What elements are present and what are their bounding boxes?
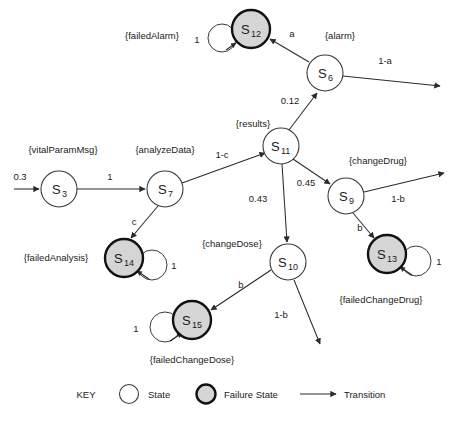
nodes-layer: S 3 S 7 S 11 S 6 [41,10,406,339]
edge-label-s12-loop: 1 [194,34,199,45]
selfloop-s13-arrow [400,267,412,275]
node-s6-label: S [318,66,327,81]
edge-label-entry-prob: 0.3 [13,171,26,182]
node-s12-sublabel: 12 [251,29,261,39]
node-s15-label: S [182,313,191,328]
node-s9-sublabel: 9 [349,196,354,206]
node-s3-label: S [52,182,61,197]
edge-label-s11-s10: 0.43 [249,193,268,204]
set-label-change-dose: {changeDose} [202,238,262,249]
edge-label-s6-exit: 1-a [378,55,392,66]
edge-s9-exit [364,173,444,192]
edge-s6-exit [343,76,440,86]
edge-label-s10-exit: 1-b [274,309,288,320]
edge-s10-exit [294,280,320,344]
edge-label-s3-s7: 1 [107,171,112,182]
node-s11-sublabel: 11 [281,146,290,156]
node-s13-label: S [377,247,386,262]
node-s11-label: S [271,139,280,154]
set-label-failed-change-dose: {failedChangeDose} [150,354,235,365]
node-s7[interactable]: S 7 [147,171,183,207]
node-s11[interactable]: S 11 [263,128,299,164]
legend-failure-state-icon [197,385,216,404]
edge-label-s7-s11: 1-c [215,149,228,160]
node-s12-label: S [241,22,250,37]
set-label-failed-analysis: {failedAnalysis} [24,252,88,263]
node-s9[interactable]: S 9 [328,178,364,214]
legend-state-icon [120,385,139,404]
edge-label-s14-loop: 1 [171,260,176,271]
node-s13[interactable]: S 13 [368,235,406,273]
edge-label-s9-exit: 1-b [391,193,405,204]
set-label-change-drug: {changeDrug} [349,155,407,166]
node-s6-sublabel: 6 [328,73,333,83]
node-s15[interactable]: S 15 [173,301,211,339]
edge-label-s10-s15: b [238,279,243,290]
set-label-results: {results} [236,118,270,129]
node-s10-sublabel: 10 [288,262,298,272]
legend: KEY State Failure State Transition [76,385,385,404]
node-s15-sublabel: 15 [192,320,202,330]
set-label-failed-alarm: {failedAlarm} [125,30,179,41]
node-s10[interactable]: S 10 [270,244,306,280]
node-s14-sublabel: 14 [124,258,134,268]
edge-s9-s13 [353,213,374,238]
state-transition-diagram: S 3 S 7 S 11 S 6 [0,0,456,421]
node-s3[interactable]: S 3 [41,171,77,207]
edge-label-s13-loop: 1 [436,256,441,267]
edge-s6-s12 [270,39,309,62]
node-s13-sublabel: 13 [387,254,397,264]
legend-title: KEY [76,389,96,400]
node-s3-sublabel: 3 [62,189,67,199]
selfloop-s14-arrow [137,271,149,279]
edge-label-s6-s12: a [289,28,295,39]
legend-transition-label: Transition [344,389,385,400]
set-label-alarm: {alarm} [325,30,355,41]
node-s12[interactable]: S 12 [232,10,270,48]
legend-state-label: State [148,389,170,400]
edge-label-s11-s6: 0.12 [281,95,300,106]
edge-label-s9-s13: b [357,222,362,233]
set-label-analyze-data: {analyzeData} [135,144,194,155]
legend-failure-state-label: Failure State [224,389,278,400]
diagram-canvas: S 3 S 7 S 11 S 6 [0,0,456,421]
edge-label-s15-loop: 1 [133,323,138,334]
node-s9-label: S [339,189,348,204]
edge-label-s11-s9: 0.45 [297,177,316,188]
edge-labels-layer: 0.3 1 1-c c 1 a 1-a 0.12 0.45 0.43 1-b b… [13,28,441,334]
node-s14[interactable]: S 14 [105,239,143,277]
node-s7-label: S [158,182,167,197]
set-label-vital-param-msg: {vitalParamMsg} [28,144,97,155]
node-s6[interactable]: S 6 [307,55,343,91]
edge-s10-s15 [211,270,271,310]
edge-label-s7-s14: c [132,216,137,227]
edge-s11-s10 [282,164,287,242]
node-s14-label: S [114,251,123,266]
set-label-failed-change-drug: {failedChangeDrug} [340,294,423,305]
node-s10-label: S [278,255,287,270]
node-s7-sublabel: 7 [168,189,173,199]
